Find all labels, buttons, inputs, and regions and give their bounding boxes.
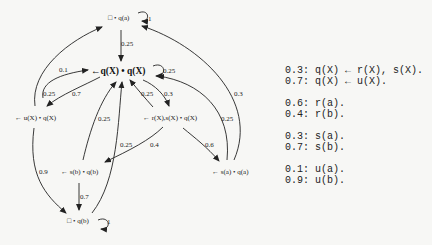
clause-group-q: 0.3: q(X) ← r(X), s(X). 0.7: q(X) ← u(X)… [285, 66, 423, 88]
label-u-to-main: 0.25 [43, 90, 56, 98]
label-main-self: 0.25 [163, 67, 176, 75]
clause-group-r: 0.6: r(a). 0.4: r(b). [285, 99, 423, 121]
node-main-goal: ←q(X) • q(X) [91, 66, 146, 77]
node-u-goal: ← u(X) • q(X) [15, 114, 57, 122]
label-main-to-u: 0.7 [72, 90, 81, 98]
program-line: 0.9: u(b). [285, 176, 423, 187]
label-rs-to-sa: 0.6 [205, 141, 214, 149]
label-bottom-to-main: 0.25 [120, 141, 133, 149]
node-sb-goal: ← s(b) • q(b) [61, 168, 99, 176]
program-line: 0.7: s(b). [285, 143, 423, 154]
program-line: 0.4: r(b). [285, 110, 423, 121]
edge-sa-to-root [142, 26, 240, 160]
node-rs-goal: ← r(X),s(X) • q(X) [143, 114, 198, 122]
node-bottom-success: □ • q(b) [67, 217, 90, 225]
label-rs-to-sb: 0.4 [150, 141, 159, 149]
label-u-to-root: 0.1 [59, 66, 68, 74]
label-sa-to-root: 0.3 [234, 90, 243, 98]
label-u-to-bottom: 0.9 [39, 168, 48, 176]
probabilistic-program: 0.3: q(X) ← r(X), s(X). 0.7: q(X) ← u(X)… [285, 66, 423, 198]
label-root-to-main: 0.25 [121, 40, 134, 48]
label-bottom-self: 1 [107, 218, 111, 226]
edge-bottom-to-main [92, 82, 122, 213]
label-root-self: 1 [148, 15, 152, 23]
clause-group-u: 0.1: u(a). 0.9: u(b). [285, 165, 423, 187]
label-main-to-rs: 0.3 [164, 90, 173, 98]
node-root-success: □ • q(a) [108, 14, 130, 22]
label-sa-to-main: 0.25 [221, 115, 234, 123]
edge-root-self [138, 12, 148, 21]
clause-group-s: 0.3: s(a). 0.7: s(b). [285, 132, 423, 154]
node-sa-goal: ← s(a) • q(a) [212, 168, 249, 176]
label-sb-to-bottom: 0.7 [80, 193, 89, 201]
label-sb-to-main: 0.25 [98, 115, 111, 123]
label-rs-to-main: 0.25 [141, 90, 154, 98]
program-line: 0.7: q(X) ← u(X). [285, 77, 423, 88]
